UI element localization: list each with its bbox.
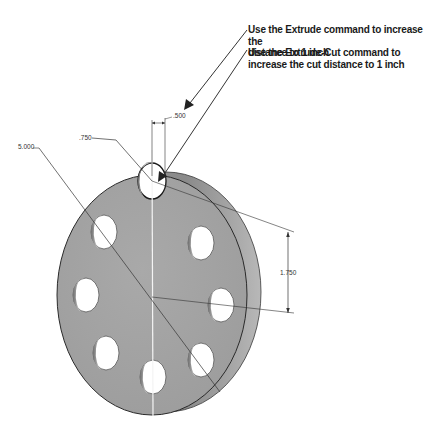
note-extrude-line1: Use the Extrude command to increase the [248,24,437,47]
note-extrude-cut-line2: increase the cut distance to 1 inch [248,59,404,71]
note-extrude-cut-line1: Use the Extrude-Cut command to [248,47,404,59]
hole-upper-right [188,225,214,260]
callout-arrow-extrude-cut [158,50,247,182]
hole-upper-left [91,214,117,249]
diameter-label: 5.000 [18,143,35,150]
note-extrude-cut: Use the Extrude-Cut command to increase … [248,47,404,70]
hole-lower-right [188,342,214,377]
bolt-radius-label: 1.750 [280,269,297,276]
thickness-label: .500 [173,112,186,119]
hole-lower-left [93,335,119,370]
hole-left [73,277,99,312]
hole-diameter-label: .750 [79,134,92,141]
